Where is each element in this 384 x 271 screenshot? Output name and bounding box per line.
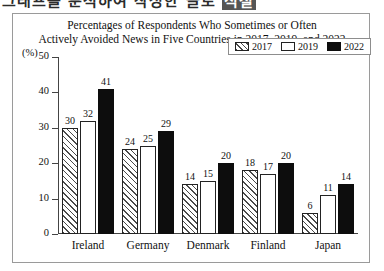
legend-label-2017: 2017 [252,41,272,52]
bar-value-label: 20 [281,150,291,161]
legend-item-2019: 2019 [281,41,318,52]
legend-swatch-2022-icon [327,42,341,51]
chart-legend: 2017 2019 2022 [228,38,371,55]
bar-rect[interactable] [242,170,258,234]
y-axis-tick: 0 [52,234,58,235]
x-axis-category-label: Denmark [178,239,238,251]
bar-value-label: 17 [263,161,273,172]
y-axis-tick-label: 30 [39,121,50,132]
bar-value-label: 20 [221,150,231,161]
bar-value-label: 41 [101,76,111,87]
legend-item-2017: 2017 [235,41,272,52]
bar-rect[interactable] [122,149,138,234]
chart-title-line-1: Percentages of Respondents Who Sometimes… [13,19,371,33]
x-axis-category-label: Finland [238,239,298,251]
cropped-header-text: 그래프를 분석하여 작성한 글로 적절 [2,0,256,10]
bar-group-bars: 242529 [118,57,178,234]
bar-value-label: 14 [341,171,351,182]
x-axis-category-label: Ireland [58,239,118,251]
legend-item-2022: 2022 [327,41,364,52]
legend-swatch-2017-icon [235,42,249,51]
bar-2022-ireland[interactable]: 41 [98,89,114,234]
bar-2019-denmark[interactable]: 15 [200,181,216,234]
bar-2019-finland[interactable]: 17 [260,174,276,234]
bar-rect[interactable] [260,174,276,234]
bar-group: 303241Ireland [58,57,118,234]
x-axis-category-label: Japan [298,239,358,251]
y-axis-tick-label: 20 [39,156,50,167]
bar-value-label: 14 [185,171,195,182]
bar-2019-germany[interactable]: 25 [140,146,156,235]
y-axis-tick-label: 10 [39,192,50,203]
bar-group: 61114Japan [298,57,358,234]
bar-rect[interactable] [218,163,234,234]
bar-value-label: 25 [143,133,153,144]
legend-swatch-2019-icon [281,42,295,51]
bar-value-label: 11 [323,182,333,193]
y-axis-tick-label: 0 [44,227,49,238]
bar-2019-ireland[interactable]: 32 [80,121,96,234]
bar-rect[interactable] [200,181,216,234]
bar-2022-germany[interactable]: 29 [158,131,174,234]
bar-rect[interactable] [80,121,96,234]
bar-group-bars: 303241 [58,57,118,234]
bar-group: 242529Germany [118,57,178,234]
bar-group-bars: 61114 [298,57,358,234]
bar-2022-finland[interactable]: 20 [278,163,294,234]
bar-group: 141520Denmark [178,57,238,234]
bar-value-label: 15 [203,168,213,179]
y-axis-tick-label: 50 [39,50,50,61]
cropped-header-sliver: 그래프를 분석하여 작성한 글로 적절 [0,0,384,10]
cropped-header-left: 그래프를 분석하여 작성한 글로 [2,0,216,10]
y-axis-tick-label: 40 [39,85,50,96]
bar-2017-finland[interactable]: 18 [242,170,258,234]
chart-frame: Percentages of Respondents Who Sometimes… [12,13,370,263]
bar-group-bars: 141520 [178,57,238,234]
legend-label-2019: 2019 [298,41,318,52]
bar-rect[interactable] [320,195,336,234]
y-axis-unit-label: (%) [22,47,38,58]
bar-2022-denmark[interactable]: 20 [218,163,234,234]
bar-rect[interactable] [62,128,78,234]
bar-value-label: 18 [245,157,255,168]
bar-rect[interactable] [98,89,114,234]
bar-rect[interactable] [158,131,174,234]
legend-label-2022: 2022 [344,41,364,52]
cropped-header-badge: 적절 [222,0,256,10]
bar-2017-ireland[interactable]: 30 [62,128,78,234]
bar-rect[interactable] [182,184,198,234]
bar-value-label: 32 [83,108,93,119]
bar-rect[interactable] [338,184,354,234]
bar-group: 181720Finland [238,57,298,234]
bar-2022-japan[interactable]: 14 [338,184,354,234]
plot-area: 01020304050303241Ireland242529Germany141… [58,57,358,234]
bar-value-label: 24 [125,136,135,147]
x-axis-category-label: Germany [118,239,178,251]
bar-group-bars: 181720 [238,57,298,234]
chart-page: 그래프를 분석하여 작성한 글로 적절 Percentages of Respo… [0,0,384,271]
bar-2017-germany[interactable]: 24 [122,149,138,234]
bar-2019-japan[interactable]: 11 [320,195,336,234]
bar-value-label: 29 [161,118,171,129]
bar-2017-japan[interactable]: 6 [302,213,318,234]
bar-rect[interactable] [302,213,318,234]
bar-value-label: 6 [308,200,313,211]
bar-rect[interactable] [140,146,156,235]
bar-rect[interactable] [278,163,294,234]
bar-value-label: 30 [65,115,75,126]
bar-2017-denmark[interactable]: 14 [182,184,198,234]
